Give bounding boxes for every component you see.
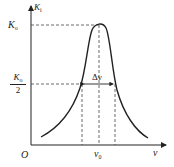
- x-axis-label: ν: [153, 148, 157, 158]
- diagram-canvas: [0, 0, 174, 167]
- center-frequency-label: ν0: [94, 149, 101, 160]
- peak-label: Ko: [8, 20, 18, 31]
- origin-label: O: [21, 150, 28, 160]
- y-axis-label: Ki: [34, 3, 42, 13]
- bandwidth-label: Δν: [92, 73, 102, 82]
- half-max-label: Ko 2: [10, 73, 26, 95]
- resonance-curve-diagram: Ki Ko Ko 2 Δν O ν0 ν: [0, 0, 174, 167]
